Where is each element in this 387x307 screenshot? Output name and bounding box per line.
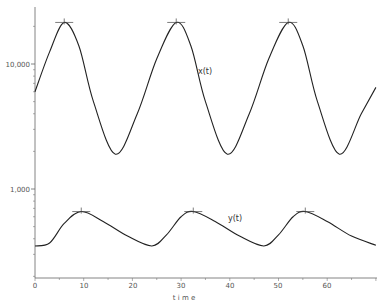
x-tick-label: 10	[80, 282, 89, 290]
x-axis-title: t i m e	[173, 294, 196, 302]
x-tick-label: 0	[33, 282, 37, 290]
y-tick-label-10000: 10,000	[6, 61, 31, 69]
y-tick-label-1000: 1,000	[10, 186, 30, 194]
series-y-line	[35, 211, 376, 246]
x-tick-label: 20	[129, 282, 138, 290]
series-x-label: x(t)	[198, 67, 212, 76]
x-tick-label: 30	[177, 282, 186, 290]
series-y-label: y(t)	[228, 214, 242, 223]
y-axis: 10,000 1,000	[6, 7, 36, 278]
x-tick-label: 60	[323, 282, 332, 290]
x-tick-label: 50	[274, 282, 283, 290]
peak-markers	[55, 18, 314, 213]
chart: 10,000 1,000 0 10 20 30 40 50 60 t i m e…	[0, 0, 387, 307]
x-axis: 0 10 20 30 40 50 60 t i m e	[33, 278, 377, 302]
x-tick-label: 40	[226, 282, 235, 290]
series-x-line	[35, 22, 376, 154]
